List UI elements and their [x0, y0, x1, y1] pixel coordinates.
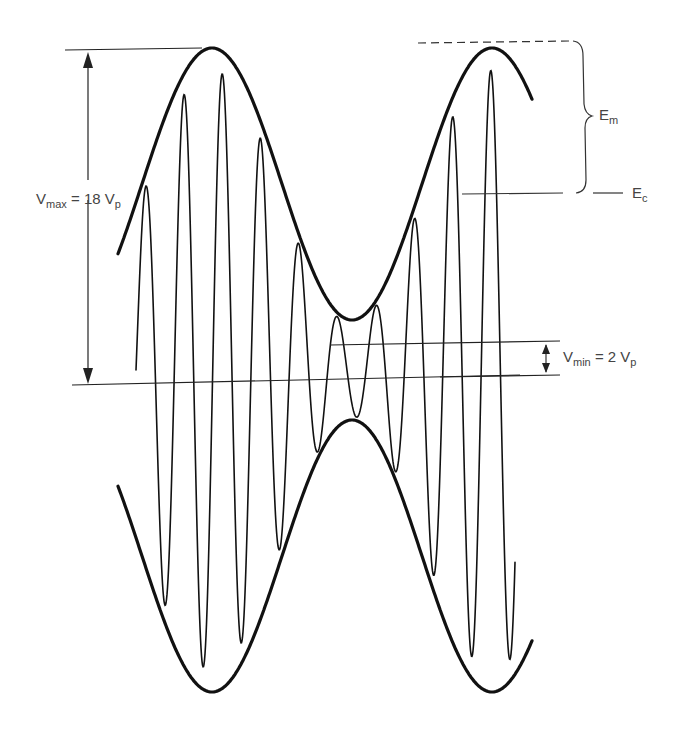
em-label: Em: [599, 106, 618, 126]
arrow-up-icon: [83, 52, 93, 68]
upper-envelope: [118, 48, 532, 320]
em-brace-icon: [573, 41, 592, 193]
arrow-down-icon: [542, 363, 550, 373]
vmin-label: Vmin = 2 Vp: [563, 348, 636, 368]
arrow-down-icon: [83, 368, 93, 384]
arrow-up-icon: [542, 344, 550, 354]
modulated-carrier-wave: [136, 71, 515, 667]
em-dashed-reference-line: [418, 41, 570, 43]
am-waveform-diagram: [0, 0, 685, 736]
vmax-top-reference-line: [65, 48, 202, 50]
vmin-top-reference-line: [330, 341, 560, 345]
ec-reference-line: [462, 193, 563, 194]
ec-label: Ec: [632, 184, 648, 204]
vmax-label: Vmax = 18 Vp: [36, 190, 121, 210]
